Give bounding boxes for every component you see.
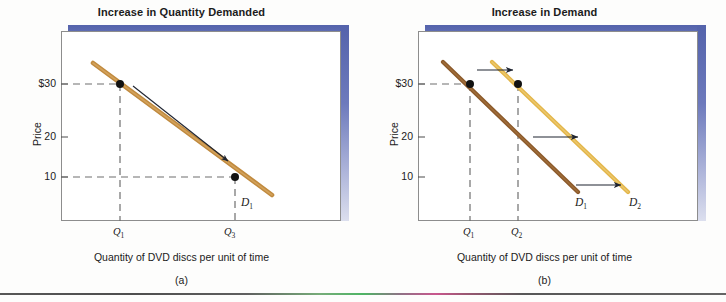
panel-a-movement-arrow (133, 86, 228, 161)
bottom-scanline-artifact (0, 293, 726, 295)
panel-a-letter: (a) (0, 274, 363, 286)
panel-b: Increase in Demand Price $30 20 10 Q1 Q2… (363, 0, 726, 302)
panel-b-letter: (b) (363, 274, 726, 286)
panel-b-point-q2 (514, 80, 522, 88)
panel-a-point-q1 (116, 80, 124, 88)
panel-a: Increase in Quantity Demanded Price $30 … (0, 0, 363, 302)
panel-b-point-q1 (466, 80, 474, 88)
demand-curve-figure: Increase in Quantity Demanded Price $30 … (0, 0, 726, 302)
panel-a-point-q3 (231, 173, 239, 181)
panel-b-x-axis-title: Quantity of DVD discs per unit of time (363, 251, 726, 263)
panel-a-x-axis-title: Quantity of DVD discs per unit of time (0, 251, 363, 263)
